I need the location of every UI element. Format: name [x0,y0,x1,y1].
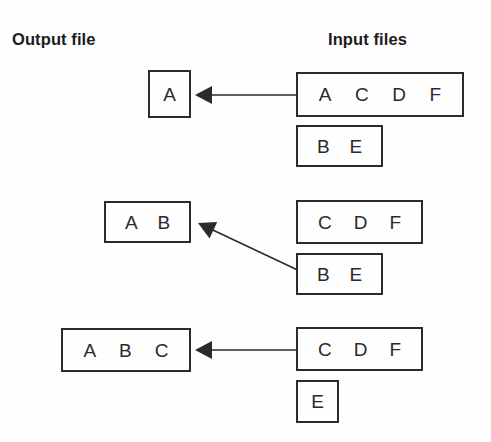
record-label: E [311,392,324,411]
record-label: B [119,341,132,360]
input-files-header: Input files [328,30,407,49]
record-label: B [157,213,170,232]
record-label: C [155,341,169,360]
record-label: A [125,213,138,232]
record-label: F [389,213,401,232]
record-label: D [354,213,368,232]
input-file-box: BE [296,253,383,295]
record-label: D [354,340,368,359]
merge-arrow [195,86,301,104]
arrow-head [198,222,217,238]
record-label: D [392,85,406,104]
input-file-box: ACDF [296,72,464,117]
record-label: C [318,213,332,232]
output-file-box: ABC [61,328,191,372]
record-label: C [318,340,332,359]
input-file-box: BE [296,125,383,167]
merge-diagram: Output file Input files AACDFBEABCDFBEAB… [0,0,491,442]
arrow-head [195,341,212,359]
record-label: B [317,265,330,284]
record-label: E [349,265,362,284]
merge-arrow [198,222,304,273]
record-label: F [430,85,442,104]
input-file-box: CDF [296,327,423,371]
merge-arrow [195,341,301,359]
arrow-head [195,86,212,104]
record-label: A [163,85,176,104]
input-file-box: E [296,380,339,423]
arrow-line [206,227,304,273]
record-label: A [319,85,332,104]
record-label: A [83,341,96,360]
input-file-box: CDF [296,200,423,244]
record-label: E [349,137,362,156]
record-label: B [317,137,330,156]
output-file-box: AB [104,201,191,243]
record-label: C [355,85,369,104]
output-file-header: Output file [12,30,96,49]
record-label: F [389,340,401,359]
output-file-box: A [148,70,191,118]
